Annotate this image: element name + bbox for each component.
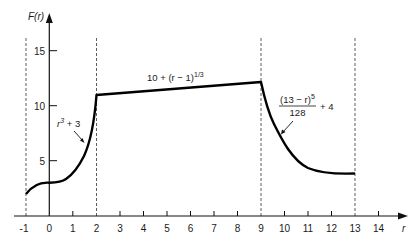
y-axis [46, 13, 53, 216]
svg-text:10 + (r − 1)1/3: 10 + (r − 1)1/3 [147, 71, 204, 83]
annotation-arrow-quintic [283, 121, 293, 132]
x-axis-label: r [402, 223, 406, 234]
eq2-head: 10 + (r − 1) [147, 72, 194, 83]
x-tick-label: 8 [235, 223, 241, 234]
x-tick-label: 3 [117, 223, 123, 234]
y-tick-labels: 5 10 15 [34, 46, 46, 167]
eq3-tail: + 4 [320, 101, 333, 112]
eq3-num-exp: 5 [311, 93, 315, 100]
x-tick-label: 6 [188, 223, 194, 234]
annotation-quintic: (13 − r)5 128 + 4 [279, 93, 333, 135]
x-tick-label: 10 [279, 223, 291, 234]
y-axis-label: F(r) [28, 11, 44, 22]
eq1-tail: + 3 [64, 118, 80, 129]
x-tick-label: 0 [47, 223, 53, 234]
x-tick-label: 12 [326, 223, 338, 234]
x-tick-label: 11 [303, 223, 314, 234]
svg-text:(13 − r)5: (13 − r)5 [280, 93, 315, 105]
y-ticks [49, 51, 57, 161]
eq3-num: (13 − r) [280, 94, 311, 105]
annotation-cubic: r3 + 3 [57, 117, 85, 143]
x-axis-arrow-icon [398, 213, 408, 220]
eq2-exp: 1/3 [194, 71, 204, 78]
x-tick-label: 5 [164, 223, 170, 234]
function-plot: -1 0 1 2 3 4 5 6 7 8 9 10 11 12 13 14 r … [0, 0, 416, 245]
x-tick-label: 7 [211, 223, 217, 234]
x-ticks [73, 211, 379, 216]
x-tick-label: 14 [373, 223, 385, 234]
x-tick-label: 4 [141, 223, 147, 234]
x-tick-label: -1 [20, 223, 29, 234]
y-axis-arrow-icon [46, 13, 53, 23]
svg-text:r3 + 3: r3 + 3 [57, 117, 80, 129]
x-tick-label: 1 [70, 223, 76, 234]
y-tick-label: 10 [34, 101, 46, 112]
eq3-den: 128 [290, 107, 306, 118]
x-tick-label: 2 [94, 223, 100, 234]
y-tick-label: 5 [39, 156, 45, 167]
x-tick-label: 13 [349, 223, 361, 234]
y-tick-label: 15 [34, 46, 46, 57]
x-tick-labels: -1 0 1 2 3 4 5 6 7 8 9 10 11 12 13 14 [20, 223, 385, 234]
annotation-cuberoot: 10 + (r − 1)1/3 [147, 71, 204, 83]
x-tick-label: 9 [258, 223, 264, 234]
